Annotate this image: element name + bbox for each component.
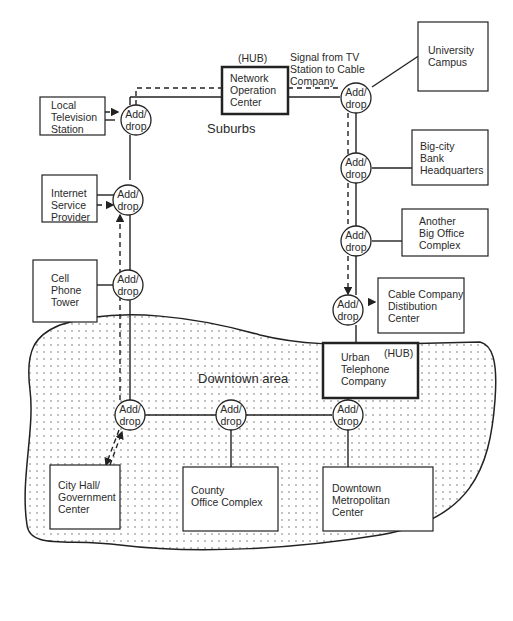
- add-drop-label: drop: [220, 415, 241, 427]
- add-drop-label: Add/: [345, 229, 367, 241]
- bank-label: Bank: [420, 152, 445, 164]
- cell-tower-label: Tower: [51, 296, 80, 308]
- add-drop-label: drop: [117, 285, 138, 297]
- isp-label: Provider: [51, 211, 91, 223]
- add-drop-label: drop: [125, 120, 146, 132]
- hub-tag-urban: (HUB): [384, 347, 413, 359]
- add-drop-label: Add/: [117, 273, 139, 285]
- cell-tower-label: Cell: [51, 272, 69, 284]
- isp-label: Service: [51, 199, 86, 211]
- office-complex-label: Complex: [419, 239, 461, 251]
- network-diagram: Add/ drop Add/ drop Add/ drop Add/ drop …: [0, 0, 513, 621]
- urban-telephone-label: Company: [341, 375, 387, 387]
- hub-tag-noc: (HUB): [238, 52, 267, 64]
- office-complex-label: Another: [419, 215, 456, 227]
- county-office-label: Office Complex: [191, 496, 263, 508]
- urban-telephone-label: Urban: [341, 351, 370, 363]
- downtown-metro-label: Center: [332, 506, 364, 518]
- city-hall-label: City Hall/: [58, 479, 100, 491]
- add-drop-label: Add/: [125, 108, 147, 120]
- add-drop-label: Add/: [117, 188, 139, 200]
- add-drop-label: drop: [337, 310, 358, 322]
- add-drop-label: drop: [117, 200, 138, 212]
- university-label: Campus: [428, 56, 467, 68]
- noc-label: Network: [230, 72, 269, 84]
- bank-label: Headquarters: [420, 164, 484, 176]
- city-hall-label: Center: [58, 503, 90, 515]
- add-drop-label: drop: [119, 415, 140, 427]
- signal-note-line3: Company: [290, 75, 336, 87]
- urban-telephone-label: Telephone: [341, 363, 390, 375]
- add-drop-label: Add/: [345, 86, 367, 98]
- local-tv-label: Television: [51, 111, 97, 123]
- bank-label: Big-city: [420, 140, 455, 152]
- add-drop-label: Add/: [345, 156, 367, 168]
- cell-tower-label: Phone: [51, 284, 82, 296]
- cable-distribution-label: Distibution: [388, 300, 437, 312]
- downtown-metro-label: Downtown: [332, 482, 381, 494]
- signal-note-line2: Station to Cable: [290, 63, 365, 75]
- add-drop-label: Add/: [337, 298, 359, 310]
- isp-label: Internet: [51, 187, 87, 199]
- add-drop-label: Add/: [119, 403, 141, 415]
- cable-distribution-label: Center: [388, 312, 420, 324]
- add-drop-label: drop: [337, 415, 358, 427]
- suburbs-label: Suburbs: [207, 121, 256, 136]
- local-tv-label: Local: [51, 99, 76, 111]
- add-drop-label: drop: [345, 98, 366, 110]
- noc-label: Operation: [230, 84, 276, 96]
- local-tv-label: Station: [51, 123, 84, 135]
- downtown-label: Downtown area: [198, 371, 289, 386]
- downtown-metro-label: Metropolitan: [332, 494, 390, 506]
- office-complex-label: Big Office: [419, 227, 464, 239]
- add-drop-label: Add/: [220, 403, 242, 415]
- cable-distribution-label: Cable Company: [388, 288, 464, 300]
- county-office-label: County: [191, 484, 225, 496]
- signal-note-line1: Signal from TV: [290, 51, 359, 63]
- add-drop-label: drop: [345, 241, 366, 253]
- university-label: University: [428, 44, 475, 56]
- add-drop-label: drop: [345, 168, 366, 180]
- city-hall-label: Government: [58, 491, 116, 503]
- noc-label: Center: [230, 96, 262, 108]
- add-drop-label: Add/: [337, 403, 359, 415]
